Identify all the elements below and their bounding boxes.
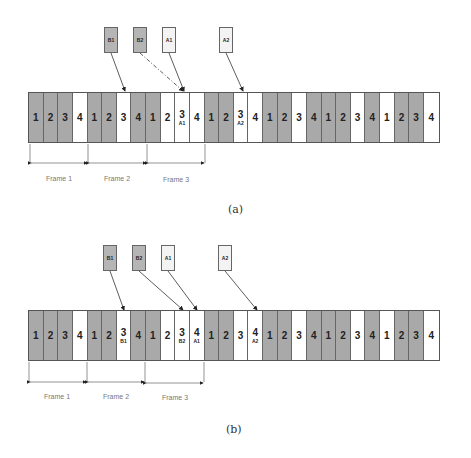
- frame-label-1: Frame 1: [28, 393, 86, 400]
- frame-label-2: Frame 2: [88, 175, 146, 182]
- slot-number: 3: [179, 110, 185, 120]
- slot-number: 1: [326, 331, 332, 341]
- slot-cell: 3: [409, 311, 424, 360]
- slot-cell: 2: [278, 311, 293, 360]
- slot-number: 2: [282, 113, 288, 123]
- slot-number: 2: [106, 113, 112, 123]
- slot-cell: 4A1: [190, 311, 205, 360]
- slot-number: 2: [223, 113, 229, 123]
- slot-number: 1: [92, 113, 98, 123]
- slot-cell: 3: [58, 311, 73, 360]
- slot-cell: 1: [88, 311, 103, 360]
- slot-cell: 4A2: [248, 311, 263, 360]
- slot-cell: 2: [102, 311, 117, 360]
- slot-cell: 2: [161, 311, 176, 360]
- frame-label-3: Frame 3: [146, 394, 204, 401]
- caption-b: (b): [226, 423, 242, 436]
- slot-strip-a: 12341234123A14123A24123412341234: [28, 92, 440, 143]
- slot-cell: 4: [365, 311, 380, 360]
- slot-number: 3: [296, 113, 302, 123]
- slot-cell: 1: [88, 93, 103, 142]
- slot-cell: 2: [219, 311, 234, 360]
- slot-cell: 1: [29, 311, 44, 360]
- slot-number: 4: [311, 113, 317, 123]
- slot-cell: 2: [395, 311, 410, 360]
- slot-assignment-label: B2: [179, 338, 185, 344]
- slot-number: 1: [209, 331, 215, 341]
- slot-number: 2: [282, 331, 288, 341]
- slot-strip-b: 1234123B14123B24A11234A2123412341234: [28, 310, 440, 361]
- slot-number: 4: [194, 113, 200, 123]
- slot-cell: 3B2: [175, 311, 190, 360]
- slot-assignment-label: A1: [179, 120, 185, 126]
- slot-cell: 2: [336, 93, 351, 142]
- slot-cell: 2: [336, 311, 351, 360]
- slot-cell: 1: [380, 93, 395, 142]
- slot-number: 2: [399, 331, 405, 341]
- slot-cell: 2: [161, 93, 176, 142]
- slot-cell: 4: [365, 93, 380, 142]
- slot-number: 3: [121, 328, 127, 338]
- slot-number: 1: [384, 331, 390, 341]
- slot-cell: 4: [424, 93, 439, 142]
- slot-number: 4: [135, 113, 141, 123]
- slot-cell: 3: [409, 93, 424, 142]
- slot-cell: 4: [131, 93, 146, 142]
- slot-cell: 1: [380, 311, 395, 360]
- slot-cell: 3A2: [234, 93, 249, 142]
- slot-assignment-label: A1: [193, 338, 199, 344]
- slot-number: 4: [252, 328, 258, 338]
- slot-number: 2: [165, 113, 171, 123]
- slot-number: 3: [121, 113, 127, 123]
- slot-cell: 4: [190, 93, 205, 142]
- slot-cell: 4: [307, 311, 322, 360]
- frame-label-3: Frame 3: [147, 176, 205, 183]
- slot-number: 3: [355, 113, 361, 123]
- slot-number: 3: [296, 331, 302, 341]
- slot-number: 3: [179, 328, 185, 338]
- slot-cell: 3: [351, 93, 366, 142]
- slot-number: 2: [399, 113, 405, 123]
- slot-cell: 3: [292, 311, 307, 360]
- slot-number: 1: [326, 113, 332, 123]
- slot-cell: 1: [29, 93, 44, 142]
- panel-a: B1 B2 A1 A2 12341234123A14123A2412341234…: [0, 0, 471, 225]
- slot-cell: 3: [234, 311, 249, 360]
- slot-assignment-label: A2: [252, 338, 258, 344]
- slot-number: 4: [194, 328, 200, 338]
- slot-number: 1: [150, 113, 156, 123]
- frame-label-2: Frame 2: [87, 393, 145, 400]
- caption-a: (a): [228, 203, 243, 216]
- slot-number: 2: [165, 331, 171, 341]
- slot-cell: 2: [278, 93, 293, 142]
- slot-cell: 4: [73, 93, 88, 142]
- slot-cell: 2: [219, 93, 234, 142]
- slot-number: 3: [238, 331, 244, 341]
- slot-number: 4: [77, 113, 83, 123]
- slot-number: 1: [209, 113, 215, 123]
- slot-number: 2: [223, 331, 229, 341]
- slot-number: 1: [267, 113, 273, 123]
- slot-number: 1: [33, 331, 39, 341]
- slot-cell: 3B1: [117, 311, 132, 360]
- slot-cell: 3: [351, 311, 366, 360]
- slot-cell: 1: [263, 93, 278, 142]
- slot-cell: 3A1: [175, 93, 190, 142]
- slot-number: 2: [106, 331, 112, 341]
- slot-number: 3: [238, 110, 244, 120]
- slot-cell: 1: [322, 311, 337, 360]
- slot-number: 3: [413, 331, 419, 341]
- slot-cell: 1: [205, 93, 220, 142]
- slot-number: 1: [33, 113, 39, 123]
- slot-assignment-label: B1: [120, 338, 126, 344]
- slot-number: 4: [135, 331, 141, 341]
- slot-number: 4: [311, 331, 317, 341]
- slot-number: 1: [92, 331, 98, 341]
- slot-cell: 1: [146, 311, 161, 360]
- frame-label-1: Frame 1: [30, 175, 88, 182]
- slot-cell: 2: [44, 93, 59, 142]
- slot-assignment-label: A2: [237, 120, 243, 126]
- slot-number: 3: [62, 331, 68, 341]
- slot-cell: 3: [292, 93, 307, 142]
- slot-number: 1: [267, 331, 273, 341]
